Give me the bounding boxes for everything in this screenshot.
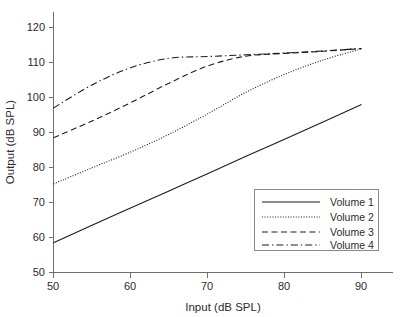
y-tick-label-70: 70 (33, 196, 45, 208)
legend-label-volume-1: Volume 1 (330, 196, 374, 208)
line-chart: 50 60 70 80 90 100 110 120 50 60 70 80 9… (0, 0, 411, 317)
legend: Volume 1 Volume 2 Volume 3 Volume 4 (255, 190, 379, 252)
series-line-volume-3 (54, 49, 362, 138)
x-tick-label-70: 70 (201, 280, 213, 292)
x-axis-ticks (54, 273, 362, 278)
y-tick-label-100: 100 (27, 91, 45, 103)
y-tick-label-50: 50 (33, 266, 45, 278)
legend-label-volume-2: Volume 2 (330, 211, 374, 223)
x-tick-label-60: 60 (124, 280, 136, 292)
legend-label-volume-3: Volume 3 (330, 226, 374, 238)
x-tick-label-90: 90 (355, 280, 367, 292)
y-tick-label-80: 80 (33, 161, 45, 173)
legend-label-volume-4: Volume 4 (330, 239, 374, 251)
y-tick-label-120: 120 (27, 21, 45, 33)
x-tick-label-50: 50 (47, 280, 59, 292)
x-axis-title: Input (dB SPL) (185, 301, 261, 313)
x-axis-tick-labels: 50 60 70 80 90 (47, 280, 367, 292)
series-line-volume-4 (54, 49, 362, 109)
y-tick-label-110: 110 (27, 56, 45, 68)
y-axis-ticks (49, 28, 54, 273)
y-axis-tick-labels: 50 60 70 80 90 100 110 120 (27, 21, 45, 278)
y-axis-title: Output (dB SPL) (4, 100, 16, 185)
x-tick-label-80: 80 (278, 280, 290, 292)
series-line-volume-2 (54, 49, 362, 184)
y-tick-label-60: 60 (33, 231, 45, 243)
chart-container: 50 60 70 80 90 100 110 120 50 60 70 80 9… (0, 0, 411, 317)
y-tick-label-90: 90 (33, 126, 45, 138)
